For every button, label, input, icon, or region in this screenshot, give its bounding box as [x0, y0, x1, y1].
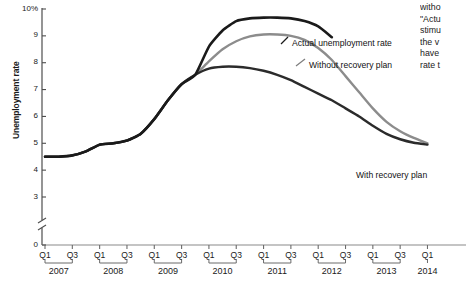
x-axis-year-label: 2013: [364, 266, 410, 276]
x-tick-label: Q3: [335, 250, 357, 260]
x-tick-label: Q1: [34, 250, 56, 260]
series-label-2: With recovery plan: [356, 170, 427, 180]
x-axis-year-label: 2009: [145, 266, 191, 276]
side-text-line: have: [420, 48, 471, 60]
y-tick-label: 0: [34, 240, 38, 249]
y-tick-label: 6: [34, 111, 38, 120]
x-tick-label: Q1: [307, 250, 329, 260]
x-tick-label: Q3: [280, 250, 302, 260]
side-text-line: witho: [420, 2, 471, 14]
series-label-1: Without recovery plan: [309, 60, 392, 70]
x-tick-label: Q3: [116, 250, 138, 260]
y-tick-label: 5: [34, 138, 38, 147]
x-tick-label: Q1: [362, 250, 384, 260]
x-axis-year-label: 2014: [404, 266, 450, 276]
x-tick-label: Q1: [416, 250, 438, 260]
series-line-0: [45, 18, 332, 157]
y-tick-label: 7: [34, 84, 38, 93]
side-text-block: witho"Actustimuthe vhaverate t: [420, 2, 471, 82]
x-tick-label: Q3: [389, 250, 411, 260]
y-tick-label: 9: [34, 30, 38, 39]
side-text-line: "Actu: [420, 14, 471, 26]
x-tick-label: Q3: [225, 250, 247, 260]
y-tick-label: 4: [34, 165, 38, 174]
x-tick-label: Q3: [171, 250, 193, 260]
side-text-line: rate t: [420, 60, 471, 72]
x-tick-label: Q3: [61, 250, 83, 260]
y-tick-label: 8: [34, 57, 38, 66]
x-axis-year-label: 2012: [309, 266, 355, 276]
chart-figure: Unemployment rate 10%98765430 Q1Q3Q1Q3Q1…: [0, 0, 471, 294]
x-axis-year-label: 2007: [36, 266, 82, 276]
y-tick-label: 3: [34, 192, 38, 201]
series-line-1: [45, 34, 427, 156]
side-text-line: stimu: [420, 25, 471, 37]
x-tick-label: Q1: [253, 250, 275, 260]
x-tick-label: Q1: [143, 250, 165, 260]
x-axis-year-label: 2008: [90, 266, 136, 276]
x-tick-label: Q1: [198, 250, 220, 260]
x-tick-label: Q1: [89, 250, 111, 260]
side-text-line: the v: [420, 37, 471, 49]
x-axis-year-label: 2011: [254, 266, 300, 276]
x-axis-year-label: 2010: [200, 266, 246, 276]
series-label-0: Actual unemployment rate: [292, 38, 392, 48]
y-tick-label: 10%: [22, 4, 38, 13]
